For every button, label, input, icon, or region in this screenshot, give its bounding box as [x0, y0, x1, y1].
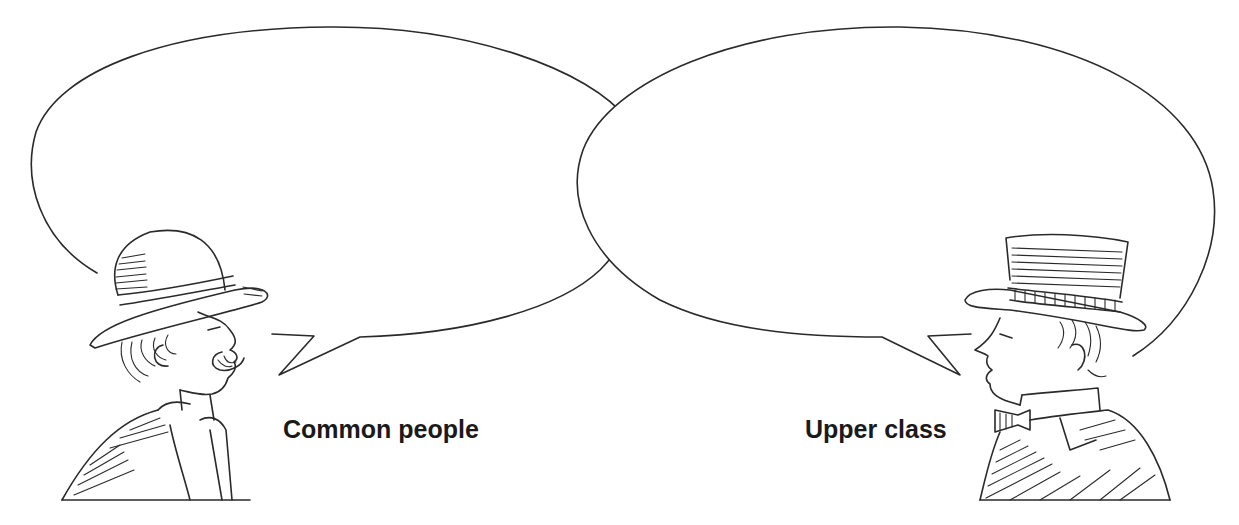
speech-bubble-illustration: Common people Upper class	[0, 0, 1239, 525]
illustration-canvas	[0, 0, 1239, 525]
moustache	[213, 352, 244, 370]
right-speech-bubble	[577, 27, 1214, 375]
face-profile	[180, 312, 237, 395]
common-people-label: Common people	[283, 417, 479, 442]
left-speech-bubble	[31, 27, 644, 375]
upper-class-label: Upper class	[805, 417, 947, 442]
